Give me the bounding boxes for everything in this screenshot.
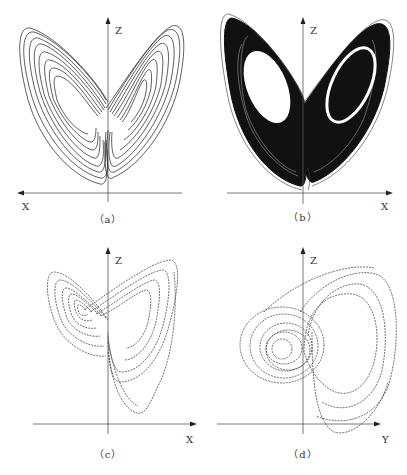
z-axis-label: Z (115, 256, 122, 266)
panel-caption: （c） (94, 450, 123, 460)
x-axis-label: X (381, 202, 388, 212)
panel-b-plot (204, 0, 407, 232)
panel-a-plot (0, 0, 204, 232)
z-axis-label: Z (115, 26, 122, 36)
z-axis-label: Z (310, 256, 317, 266)
lorenz-attractor-figure: Z X （a） (0, 0, 407, 475)
x-axis-arrow-icon (17, 191, 24, 196)
panel-caption: （a） (94, 215, 123, 225)
panel-d: Z Y （d） (204, 232, 407, 475)
x-axis-arrow-icon (190, 422, 197, 427)
z-axis-arrow-icon (301, 17, 306, 24)
y-axis-arrow-icon (374, 422, 381, 427)
panel-caption: （b） (288, 213, 317, 223)
panel-d-plot (204, 232, 407, 475)
x-axis-label: X (22, 202, 29, 212)
panel-b: Z X （b） (204, 0, 407, 232)
z-axis-arrow-icon (301, 247, 306, 254)
panel-c: Z X （c） (0, 232, 204, 475)
z-axis-arrow-icon (106, 17, 111, 24)
panel-caption: （d） (288, 450, 317, 460)
z-axis-label: Z (310, 26, 317, 36)
panel-a: Z X （a） (0, 0, 204, 232)
x-axis-arrow-icon (386, 191, 393, 196)
y-axis-label: Y (382, 435, 389, 445)
x-axis-label: X (186, 435, 193, 445)
z-axis-arrow-icon (106, 247, 111, 254)
panel-c-plot (0, 232, 204, 475)
